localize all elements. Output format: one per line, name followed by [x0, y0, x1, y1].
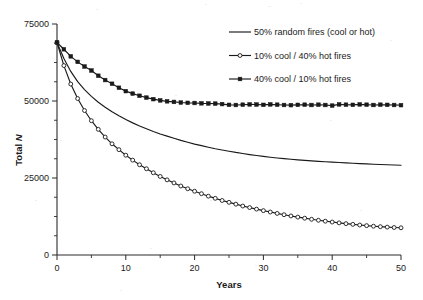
- data-point-marker: [351, 103, 355, 107]
- data-point-marker: [165, 178, 169, 182]
- data-point-marker: [55, 41, 59, 45]
- y-tick-label: 0: [44, 250, 49, 260]
- y-tick-label: 25000: [24, 173, 49, 183]
- x-axis-title: Years: [216, 279, 241, 290]
- data-point-marker: [238, 54, 242, 58]
- data-point-marker: [275, 211, 279, 215]
- data-point-marker: [385, 103, 389, 107]
- data-point-marker: [268, 210, 272, 214]
- data-point-marker: [358, 103, 362, 107]
- data-point-marker: [193, 101, 197, 105]
- data-point-marker: [207, 102, 211, 106]
- line-chart: 0250005000075000 01020304050 50% random …: [0, 0, 423, 300]
- data-point-marker: [103, 78, 107, 82]
- data-point-marker: [179, 101, 183, 105]
- data-point-marker: [392, 226, 396, 230]
- data-point-marker: [372, 103, 376, 107]
- data-point-marker: [117, 148, 121, 152]
- data-point-marker: [275, 103, 279, 107]
- data-point-marker: [138, 94, 142, 98]
- data-point-marker: [296, 215, 300, 219]
- data-point-marker: [296, 103, 300, 107]
- data-point-marker: [193, 189, 197, 193]
- data-point-marker: [337, 103, 341, 107]
- y-tick-label: 75000: [24, 19, 49, 29]
- data-point-marker: [323, 103, 327, 107]
- data-point-marker: [234, 103, 238, 107]
- legend-label: 10% cool / 40% hot fires: [254, 51, 352, 61]
- data-point-marker: [248, 103, 252, 107]
- data-point-marker: [303, 103, 307, 107]
- data-point-marker: [110, 82, 114, 86]
- data-point-marker: [399, 103, 403, 107]
- data-point-marker: [323, 219, 327, 223]
- data-point-marker: [158, 175, 162, 179]
- x-tick-label: 0: [54, 263, 59, 273]
- data-point-marker: [255, 103, 259, 107]
- data-point-marker: [344, 222, 348, 226]
- data-point-marker: [117, 86, 121, 90]
- data-point-marker: [372, 224, 376, 228]
- data-point-marker: [310, 217, 314, 221]
- data-point-marker: [241, 204, 245, 208]
- data-point-marker: [227, 103, 231, 107]
- y-axis-title-text: Total: [13, 144, 24, 166]
- data-point-marker: [165, 99, 169, 103]
- data-point-marker: [344, 103, 348, 107]
- data-point-marker: [69, 54, 73, 58]
- data-point-marker: [289, 103, 293, 107]
- data-point-marker: [83, 65, 87, 69]
- data-point-marker: [378, 225, 382, 229]
- data-point-marker: [151, 171, 155, 175]
- data-point-marker: [330, 220, 334, 224]
- x-tick-label: 30: [258, 263, 268, 273]
- data-series-group: [55, 41, 403, 230]
- data-point-marker: [303, 216, 307, 220]
- data-point-marker: [76, 60, 80, 64]
- data-point-marker: [282, 103, 286, 107]
- y-tick-label: 50000: [24, 96, 49, 106]
- data-point-marker: [337, 221, 341, 225]
- data-point-marker: [138, 163, 142, 167]
- data-point-marker: [179, 184, 183, 188]
- data-point-marker: [379, 103, 383, 107]
- data-point-marker: [69, 82, 73, 86]
- data-point-marker: [392, 103, 396, 107]
- data-point-marker: [110, 142, 114, 146]
- data-point-marker: [241, 103, 245, 107]
- data-point-marker: [96, 127, 100, 131]
- data-point-marker: [268, 103, 272, 107]
- data-point-marker: [103, 135, 107, 139]
- data-point-marker: [200, 101, 204, 105]
- data-point-marker: [317, 103, 321, 107]
- data-point-marker: [89, 119, 93, 123]
- data-point-marker: [248, 206, 252, 210]
- x-tick-label: 50: [396, 263, 406, 273]
- data-point-marker: [158, 99, 162, 103]
- data-point-marker: [220, 102, 224, 106]
- data-point-marker: [238, 77, 242, 81]
- data-point-marker: [96, 74, 100, 78]
- chart-figure: 0250005000075000 01020304050 50% random …: [0, 0, 423, 300]
- data-point-marker: [399, 226, 403, 230]
- data-point-marker: [186, 187, 190, 191]
- data-point-marker: [213, 102, 217, 106]
- x-tick-label: 40: [327, 263, 337, 273]
- data-point-marker: [144, 167, 148, 171]
- data-point-marker: [62, 47, 66, 51]
- data-point-marker: [145, 96, 149, 100]
- x-tick-label: 20: [190, 263, 200, 273]
- data-point-marker: [131, 92, 135, 96]
- data-point-marker: [282, 213, 286, 217]
- data-point-marker: [330, 104, 334, 108]
- y-axis-title-symbol: N: [13, 133, 24, 141]
- legend-label: 40% cool / 10% hot fires: [254, 74, 352, 84]
- data-point-marker: [351, 222, 355, 226]
- data-point-marker: [385, 225, 389, 229]
- data-point-marker: [200, 192, 204, 196]
- data-point-marker: [124, 89, 128, 93]
- legend-entry-3: 40% cool / 10% hot fires: [229, 74, 352, 84]
- data-point-marker: [124, 153, 128, 157]
- y-axis: 0250005000075000: [24, 19, 57, 260]
- legend-entry-2: 10% cool / 40% hot fires: [229, 51, 352, 61]
